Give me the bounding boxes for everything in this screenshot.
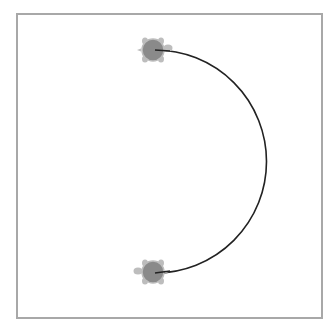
arc-end-segment — [155, 50, 170, 51]
turtle-drawing — [0, 0, 334, 328]
semicircle-arc — [155, 50, 267, 273]
turtle-icon — [137, 38, 173, 63]
